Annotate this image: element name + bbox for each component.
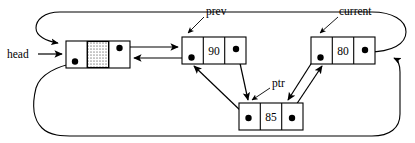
ptr-node: 85 [239, 103, 303, 130]
current-node-value: 80 [337, 45, 349, 57]
leader-current-label [320, 17, 338, 33]
head-node-next-dot [116, 45, 122, 51]
leader-prev-label [188, 17, 204, 33]
prev-node-prev-dot [188, 54, 194, 60]
linked-list-diagram: 90 80 85 head prev current ptr [0, 0, 415, 143]
label-prev: prev [206, 5, 227, 18]
prev-node: 90 [182, 37, 246, 64]
leader-ptr-label [252, 88, 270, 100]
current-node: 80 [311, 37, 375, 64]
head-node-prev-dot [72, 58, 78, 64]
diagram-canvas: 90 80 85 head prev current ptr [0, 0, 415, 143]
ptr-node-value: 85 [265, 111, 277, 123]
link-ptr-prev-to-prev [194, 66, 242, 112]
prev-node-value: 90 [208, 45, 220, 57]
ptr-node-prev-dot [245, 115, 251, 121]
current-node-prev-dot [317, 54, 323, 60]
head-node-hatched-cell [87, 42, 108, 68]
ptr-node-next-dot [289, 115, 295, 121]
label-head: head [7, 48, 29, 60]
head-node [66, 41, 130, 68]
label-ptr: ptr [272, 77, 285, 90]
link-head-prev-to-current [34, 58, 400, 136]
label-current: current [339, 5, 372, 17]
current-node-next-dot [362, 47, 368, 53]
prev-node-next-dot [233, 46, 239, 52]
